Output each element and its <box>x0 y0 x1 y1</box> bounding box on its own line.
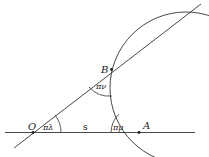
angle-label-A: πμ <box>112 123 123 132</box>
circle <box>110 12 209 157</box>
segment-label-s: s <box>83 122 88 132</box>
angle-label-B: πν <box>95 82 106 91</box>
label-A: A <box>142 120 150 131</box>
label-B: B <box>100 64 108 75</box>
angle-label-O: πλ <box>42 123 53 132</box>
point-B <box>110 68 113 71</box>
angle-arc-O <box>55 115 61 133</box>
point-A <box>138 131 141 134</box>
label-O: O <box>28 121 36 132</box>
geometry-diagram: O A B πλ πμ πν s <box>0 0 209 157</box>
